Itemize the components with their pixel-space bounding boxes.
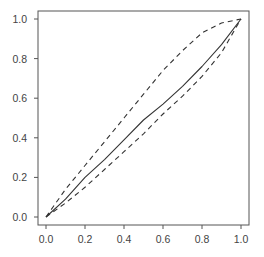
- x-tick-label: 0.2: [78, 233, 93, 245]
- plot-lines: [46, 19, 241, 217]
- x-axis: 0.00.20.40.60.81.0: [39, 225, 249, 245]
- chart: 0.00.20.40.60.81.0 0.00.20.40.60.81.0: [0, 0, 264, 257]
- estimate-line: [46, 19, 241, 217]
- y-tick-label: 1.0: [12, 13, 27, 25]
- lower-band-line: [46, 19, 241, 217]
- y-axis: 0.00.20.40.60.81.0: [12, 13, 38, 223]
- plot-frame: [38, 11, 249, 225]
- upper-band-line: [46, 19, 241, 217]
- y-tick-label: 0.0: [12, 211, 27, 223]
- y-tick-label: 0.2: [12, 171, 27, 183]
- x-tick-label: 0.6: [156, 233, 171, 245]
- y-tick-label: 0.6: [12, 92, 27, 104]
- x-tick-label: 0.0: [39, 233, 54, 245]
- x-tick-label: 0.4: [117, 233, 132, 245]
- y-tick-label: 0.4: [12, 132, 27, 144]
- x-tick-label: 0.8: [195, 233, 210, 245]
- y-tick-label: 0.8: [12, 53, 27, 65]
- x-tick-label: 1.0: [234, 233, 249, 245]
